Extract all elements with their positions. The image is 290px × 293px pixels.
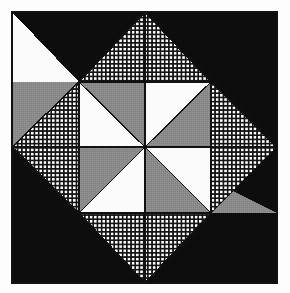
figure-stage: Square quilt block with four black corne…: [0, 0, 290, 293]
quilt-block-figure: Square quilt block with four black corne…: [0, 0, 290, 293]
quilt-block-body: [12, 12, 277, 283]
